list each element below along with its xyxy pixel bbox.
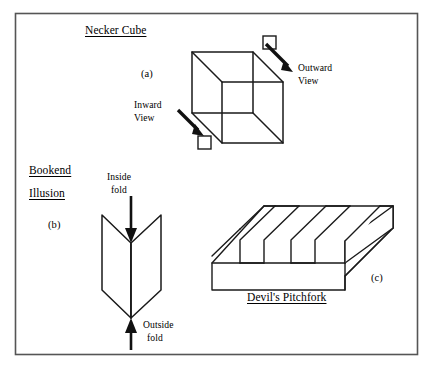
necker-cube-title: Necker Cube [85,24,146,37]
inside-fold-label-line1: Inside [107,172,131,183]
devils-pitchfork-title: Devil's Pitchfork [247,291,326,304]
outward-view-label-line1: Outward [298,63,332,74]
panel-b-enumerator: (b) [48,219,61,231]
figure-root: Necker Cube (a) Outward View Inward View… [0,0,432,372]
inward-view-square [198,136,211,149]
inward-view-label-line2: View [134,113,155,124]
figure-canvas [0,0,432,372]
outside-fold-label-line1: Outside [143,320,174,331]
outside-fold-label-line2: fold [147,333,163,344]
figure-border [16,14,418,355]
inside-fold-label-line2: fold [111,185,127,196]
inward-view-label-line1: Inward [134,100,162,111]
bookend-illusion-title-line2: Illusion [29,187,65,200]
panel-a-enumerator: (a) [141,68,153,80]
outward-view-label-line2: View [298,76,319,87]
bookend-illusion-title-line1: Bookend [29,164,71,177]
panel-c-enumerator: (c) [371,272,383,284]
